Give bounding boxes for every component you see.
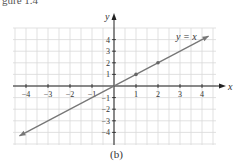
x-axis-label: x xyxy=(227,81,233,92)
x-tick-label: 4 xyxy=(200,90,204,99)
x-axis-arrow-icon xyxy=(219,84,226,89)
y-tick-label: −3 xyxy=(101,117,110,126)
x-tick-label: 1 xyxy=(134,90,138,99)
x-tick-label: 2 xyxy=(156,90,160,99)
x-tick-label: 3 xyxy=(178,90,182,99)
data-point xyxy=(156,61,160,65)
y-tick-label: −2 xyxy=(101,105,110,114)
x-tick-label: −3 xyxy=(44,90,53,99)
y-tick-label: −1 xyxy=(101,94,110,103)
plot-area: −4−3−2−11234−4−3−2−11234xyy = x xyxy=(0,0,233,163)
y-tick-label: 1 xyxy=(106,70,110,79)
y-axis-label: y xyxy=(104,11,110,22)
y-tick-label: −4 xyxy=(101,128,110,137)
x-tick-label: −4 xyxy=(22,90,31,99)
data-point xyxy=(134,73,138,77)
y-tick-label: 2 xyxy=(106,59,110,68)
line-equation-label: y = x xyxy=(175,31,197,42)
figure: gure 1.4 −4−3−2−11234−4−3−2−11234xyy = x… xyxy=(0,0,233,163)
y-tick-label: 4 xyxy=(106,36,110,45)
y-axis-arrow-icon xyxy=(112,13,117,20)
x-tick-label: −2 xyxy=(66,90,75,99)
y-tick-label: 3 xyxy=(106,47,110,56)
figure-caption: (b) xyxy=(0,148,233,160)
